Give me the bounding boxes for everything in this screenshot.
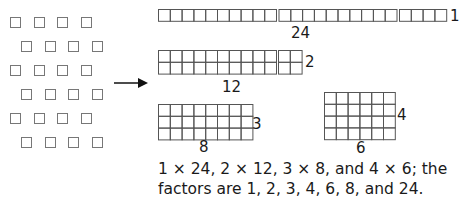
caption-line-1: 1 × 24, 2 × 12, 3 × 8, and 4 × 6; the [158,159,447,179]
label-12-width: 12 [222,80,241,95]
caption: 1 × 24, 2 × 12, 3 × 8, and 4 × 6; the fa… [158,159,447,199]
label-6-width: 6 [356,141,366,156]
label-8-width: 8 [199,140,209,155]
label-4-height: 4 [397,108,407,123]
label-24-width: 24 [291,26,310,41]
label-3-height: 3 [252,117,262,132]
label-2-height: 2 [305,55,315,70]
caption-line-2: factors are 1, 2, 3, 4, 6, 8, and 24. [158,179,447,199]
label-1-height: 1 [450,9,460,24]
